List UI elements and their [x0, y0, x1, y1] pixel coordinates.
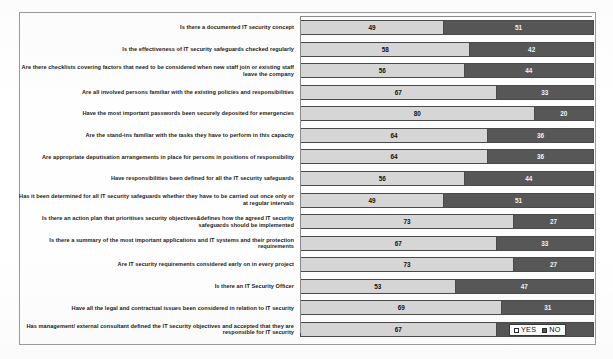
- bar-segment-no: 27: [514, 215, 593, 228]
- bar-row: Have the most important passwords been s…: [19, 104, 594, 123]
- bar-category-label: Are appropriate deputisation arrangement…: [19, 154, 300, 161]
- bar-track: 7327: [300, 214, 594, 229]
- bar-segment-no: 33: [497, 86, 593, 99]
- bar-value-yes: 64: [390, 153, 397, 160]
- bar-segment-yes: 67: [301, 323, 497, 336]
- bar-category-label: Has management/ external consultant defi…: [19, 323, 300, 336]
- legend-item-no: NO: [542, 326, 560, 334]
- bar-value-no: 47: [521, 283, 528, 290]
- bar-segment-no: 36: [488, 150, 593, 163]
- bar-category-label: Have the most important passwords been s…: [19, 110, 300, 117]
- bar-row: Have responsibilities been defined for a…: [19, 169, 594, 188]
- category-axis-line: [300, 16, 301, 333]
- bar-row: Is there an action plan that prioritises…: [19, 212, 594, 231]
- bar-segment-no: 36: [488, 129, 593, 142]
- bar-value-no: 27: [550, 218, 557, 225]
- bar-track: 6436: [300, 149, 594, 164]
- bar-category-label: Has it been determined for all IT securi…: [19, 193, 300, 206]
- bar-segment-yes: 67: [301, 237, 497, 250]
- legend-label-yes: YES: [521, 326, 536, 334]
- bar-track: 8020: [300, 106, 594, 121]
- bar-segment-yes: 80: [301, 107, 535, 120]
- bar-category-label: Is there an IT Security Officer: [19, 283, 300, 290]
- bar-row: Are IT security requirements considered …: [19, 255, 594, 274]
- bar-category-label: Is there a documented IT security concep…: [19, 24, 300, 31]
- bar-row: Is the effectiveness of IT security safe…: [19, 40, 594, 59]
- bar-segment-yes: 53: [301, 280, 456, 293]
- bar-value-yes: 64: [390, 132, 397, 139]
- bar-value-no: 51: [515, 197, 522, 204]
- bar-segment-no: 51: [444, 21, 593, 34]
- bar-value-no: 27: [550, 261, 557, 268]
- bar-value-no: 51: [515, 24, 522, 31]
- legend-item-yes: YES: [514, 326, 536, 334]
- bar-value-no: 31: [544, 304, 551, 311]
- bar-track: 5842: [300, 42, 594, 57]
- bar-segment-yes: 49: [301, 194, 444, 207]
- bar-category-label: Is there a summary of the most important…: [19, 237, 300, 250]
- bar-row: Have all the legal and contractual issue…: [19, 298, 594, 317]
- bar-value-yes: 58: [382, 46, 389, 53]
- bar-value-yes: 80: [414, 110, 421, 117]
- bar-value-yes: 69: [398, 304, 405, 311]
- bar-track: 6733: [300, 236, 594, 251]
- legend-swatch-no-icon: [542, 328, 547, 333]
- bar-row: Are appropriate deputisation arrangement…: [19, 147, 594, 166]
- bar-value-yes: 73: [404, 218, 411, 225]
- bar-segment-yes: 49: [301, 21, 444, 34]
- bar-track: 4951: [300, 193, 594, 208]
- bar-value-yes: 67: [395, 326, 402, 333]
- bar-value-no: 44: [525, 175, 532, 182]
- bar-segment-no: 51: [444, 194, 593, 207]
- bar-track: 6733: [300, 85, 594, 100]
- bar-row: Are the stand-ins familiar with the task…: [19, 126, 594, 145]
- bar-category-label: Have responsibilities been defined for a…: [19, 175, 300, 182]
- legend-swatch-yes-icon: [514, 328, 519, 333]
- bar-value-yes: 49: [368, 197, 375, 204]
- bar-track: 5644: [300, 171, 594, 186]
- bar-track: 6931: [300, 300, 594, 315]
- bar-value-no: 44: [525, 67, 532, 74]
- bar-row: Has management/ external consultant defi…: [19, 320, 594, 339]
- bar-segment-yes: 56: [301, 172, 465, 185]
- bar-segment-yes: 64: [301, 129, 488, 142]
- bar-category-label: Is the effectiveness of IT security safe…: [19, 46, 300, 53]
- bar-segment-no: 44: [465, 64, 593, 77]
- bar-segment-yes: 64: [301, 150, 488, 163]
- stacked-bar-chart: Is there a documented IT security concep…: [19, 12, 596, 345]
- bar-category-label: Have all the legal and contractual issue…: [19, 305, 300, 312]
- bar-segment-yes: 56: [301, 64, 465, 77]
- bar-track: 5644: [300, 63, 594, 78]
- bar-track: 6436: [300, 128, 594, 143]
- chart-legend: YES NO: [509, 324, 566, 336]
- bar-value-yes: 53: [374, 283, 381, 290]
- bar-segment-yes: 73: [301, 258, 514, 271]
- bar-value-yes: 49: [368, 24, 375, 31]
- bar-value-no: 36: [537, 153, 544, 160]
- bar-segment-no: 27: [514, 258, 593, 271]
- bar-row: Are there checklists covering factors th…: [19, 61, 594, 80]
- bar-value-no: 42: [528, 46, 535, 53]
- bar-row: Is there a summary of the most important…: [19, 234, 594, 253]
- bar-segment-yes: 67: [301, 86, 497, 99]
- bar-row: Is there a documented IT security concep…: [19, 18, 594, 37]
- bar-track: 5347: [300, 279, 594, 294]
- bar-value-no: 20: [560, 110, 567, 117]
- bar-segment-yes: 58: [301, 43, 470, 56]
- category-axis-top-line: [300, 16, 592, 17]
- bar-category-label: Are the stand-ins familiar with the task…: [19, 132, 300, 139]
- bar-segment-no: 42: [470, 43, 593, 56]
- bar-row: Are all involved persons familiar with t…: [19, 83, 594, 102]
- bar-track: 4951: [300, 20, 594, 35]
- bar-segment-yes: 69: [301, 301, 502, 314]
- bar-segment-yes: 73: [301, 215, 514, 228]
- bar-row: Is there an IT Security Officer5347: [19, 277, 594, 296]
- bar-value-no: 36: [537, 132, 544, 139]
- bar-segment-no: 47: [456, 280, 593, 293]
- bar-value-yes: 67: [395, 89, 402, 96]
- bar-category-label: Are all involved persons familiar with t…: [19, 89, 300, 96]
- bar-category-label: Are IT security requirements considered …: [19, 261, 300, 268]
- bar-value-yes: 67: [395, 240, 402, 247]
- bar-value-no: 33: [541, 240, 548, 247]
- bar-segment-no: 20: [535, 107, 593, 120]
